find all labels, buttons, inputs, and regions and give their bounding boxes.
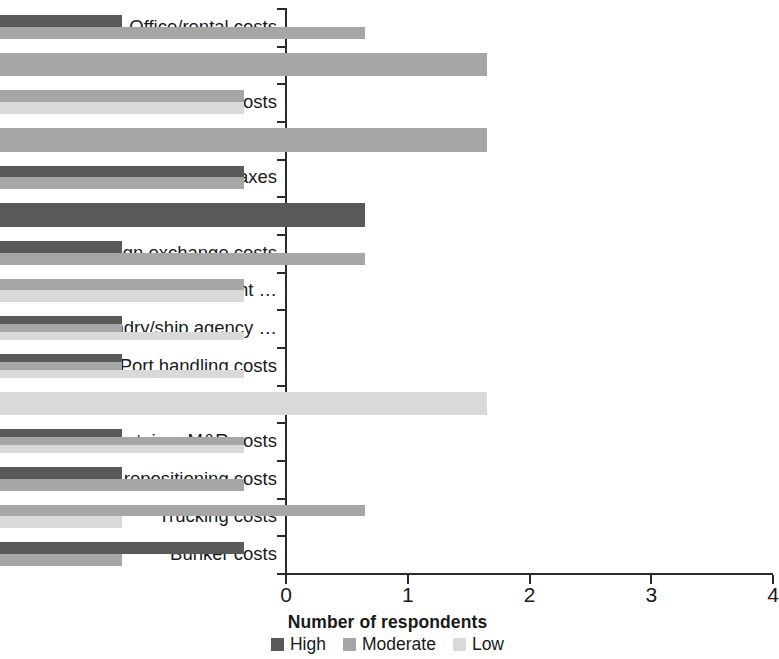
bar-segment-band xyxy=(0,392,775,415)
bar-segment-low xyxy=(0,332,244,340)
bar-segment-band xyxy=(0,362,775,370)
bar-segment-moderate xyxy=(0,177,244,189)
bar-segment-band xyxy=(0,505,775,517)
bar-segment-band xyxy=(0,53,775,76)
legend-label: High xyxy=(290,636,326,654)
bar-segment-band xyxy=(0,102,775,114)
bar-segment-moderate xyxy=(0,90,244,102)
bar-segment-moderate xyxy=(0,554,122,566)
bar-segment-moderate xyxy=(0,128,487,151)
bar-segment-low xyxy=(0,102,244,114)
bar-segment-band xyxy=(0,279,775,291)
bar-segment-moderate xyxy=(0,437,244,445)
chart-category-row: Trucking costs xyxy=(0,498,775,536)
bar-segment-band xyxy=(0,437,775,445)
bar-segment-band xyxy=(0,554,775,566)
bar-segment-low xyxy=(0,290,244,302)
bar-segment-band xyxy=(0,316,775,324)
bar-segment-moderate xyxy=(0,362,122,370)
bar-segment-moderate xyxy=(0,505,365,517)
x-axis-tick-label: 3 xyxy=(645,584,657,605)
x-axis-tick-label: 0 xyxy=(280,584,292,605)
bar-segment-band xyxy=(0,253,775,265)
bar-segment-band xyxy=(0,241,775,253)
bar-segment-moderate xyxy=(0,324,122,332)
bar-segment-high xyxy=(0,15,122,27)
bar-segment-band xyxy=(0,429,775,437)
bar-segment-band xyxy=(0,128,775,151)
bar-segment-band xyxy=(0,445,775,453)
legend-swatch-icon xyxy=(271,638,284,651)
bar-segment-band xyxy=(0,27,775,39)
x-axis-title: Number of respondents xyxy=(0,612,775,633)
bar-segment-moderate xyxy=(0,53,487,76)
chart-category-row: Expatriate costs xyxy=(0,121,775,159)
legend-item-low[interactable]: Low xyxy=(453,636,504,654)
bar-segment-high xyxy=(0,203,365,226)
bar-segment-band xyxy=(0,479,775,491)
bar-segment-high xyxy=(0,316,122,324)
chart-category-row: Foreign exchange costs xyxy=(0,234,775,272)
legend-item-moderate[interactable]: Moderate xyxy=(343,636,436,654)
bar-segment-moderate xyxy=(0,253,365,265)
bar-segment-moderate xyxy=(0,479,244,491)
bar-segment-low xyxy=(0,445,244,453)
chart-category-row: Bunker costs xyxy=(0,535,775,573)
legend-swatch-icon xyxy=(343,638,356,651)
bar-segment-low xyxy=(0,392,487,415)
chart-legend: HighModerateLow xyxy=(0,636,775,654)
bar-segment-high xyxy=(0,429,122,437)
legend-swatch-icon xyxy=(453,638,466,651)
chart-category-row: Taxes xyxy=(0,159,775,197)
x-axis-tick-label: 2 xyxy=(524,584,536,605)
chart-category-row: Port handling costs xyxy=(0,347,775,385)
bar-segment-low xyxy=(0,516,122,528)
bar-segment-band xyxy=(0,15,775,27)
bar-segment-band xyxy=(0,290,775,302)
chart-category-row: Container storage/depot costs xyxy=(0,385,775,423)
bar-segment-band xyxy=(0,467,775,479)
bar-segment-high xyxy=(0,241,122,253)
chart-category-row: Container repositioning costs xyxy=(0,460,775,498)
chart-category-row: Utilities costs xyxy=(0,46,775,84)
bar-segment-high xyxy=(0,467,122,479)
chart-category-row: Staff costs xyxy=(0,83,775,121)
bar-segment-high xyxy=(0,354,122,362)
legend-item-high[interactable]: High xyxy=(271,636,326,654)
chart-category-row: Container M&R costs xyxy=(0,422,775,460)
bar-segment-high xyxy=(0,166,244,178)
chart-category-row: Borrowing costs xyxy=(0,196,775,234)
bar-segment-band xyxy=(0,370,775,378)
bar-segment-band xyxy=(0,177,775,189)
bar-segment-low xyxy=(0,370,244,378)
bar-segment-band xyxy=(0,90,775,102)
legend-label: Moderate xyxy=(362,636,436,654)
legend-label: Low xyxy=(472,636,504,654)
chart-category-row: Ship husbandry/ship agency … xyxy=(0,309,775,347)
x-axis-tick-label: 4 xyxy=(767,584,779,605)
x-axis-tick-label: 1 xyxy=(402,584,414,605)
bar-segment-band xyxy=(0,542,775,554)
chart-category-row: Office/rental costs xyxy=(0,8,775,46)
bar-segment-band xyxy=(0,516,775,528)
bar-segment-band xyxy=(0,332,775,340)
bar-segment-band xyxy=(0,324,775,332)
bar-segment-high xyxy=(0,542,244,554)
bar-segment-moderate xyxy=(0,279,244,291)
bar-segment-band xyxy=(0,354,775,362)
chart-category-row: Cargo agency/freight … xyxy=(0,272,775,310)
bar-segment-band xyxy=(0,203,775,226)
bar-segment-band xyxy=(0,166,775,178)
bar-segment-moderate xyxy=(0,27,365,39)
